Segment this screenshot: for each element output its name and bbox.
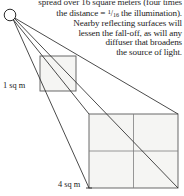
caption-distance-suffix: the illumination).: [119, 8, 182, 18]
fraction-denominator: 16: [113, 11, 119, 18]
label-small-square: 1 sq m: [3, 81, 25, 90]
label-large-square: 4 sq m: [58, 180, 80, 189]
caption-line-spread: spread over 16 square meters (four times: [4, 0, 182, 8]
figure-canvas: spread over 16 square meters (four times…: [0, 0, 184, 196]
caption-line-source: the source of light.: [4, 48, 182, 58]
caption-distance-prefix: the distance =: [56, 8, 107, 18]
figure-caption: spread over 16 square meters (four times…: [4, 0, 182, 58]
fraction-one-sixteenth: 1/16: [107, 8, 118, 20]
small-square-face: [40, 56, 76, 91]
